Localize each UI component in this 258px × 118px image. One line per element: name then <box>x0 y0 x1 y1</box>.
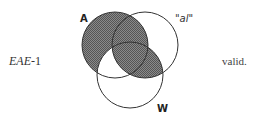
set-label-al: "al" <box>175 13 193 24</box>
verdict-label: valid. <box>222 55 247 67</box>
set-label-w: W <box>157 103 168 114</box>
set-label-a: A <box>80 13 88 24</box>
venn-diagram: A "al" W <box>0 0 258 118</box>
